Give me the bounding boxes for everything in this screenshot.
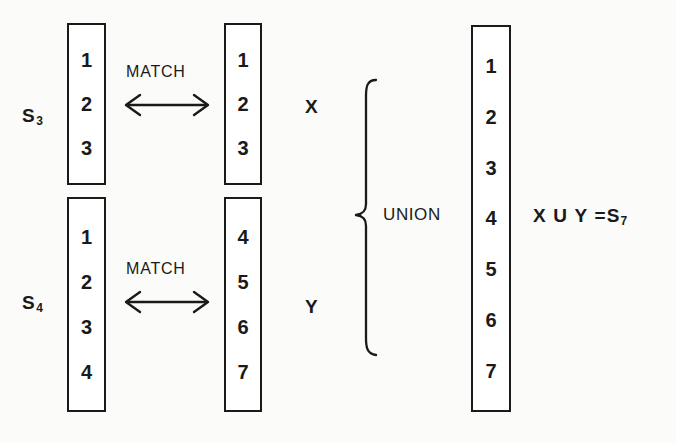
source-set-label-s3: S3	[22, 106, 42, 125]
target-list-box-y: 4 5 6 7	[224, 197, 262, 412]
list-cell: 2	[81, 94, 92, 114]
list-cell: 5	[237, 272, 248, 292]
set-union-diagram: S3 1 2 3 MATCH 1 2 3 X S4 1 2 3 4 MATCH	[0, 0, 676, 442]
list-cell: 1	[81, 227, 92, 247]
source-list-box-s3: 1 2 3	[67, 23, 106, 185]
union-equation-result-subscript: 7	[621, 214, 629, 228]
target-list-box-x: 1 2 3	[224, 23, 262, 185]
list-cell: 2	[485, 107, 496, 127]
group-label-x: X	[305, 97, 318, 116]
union-equation-result-letter: S	[607, 205, 621, 226]
match-arrow-top-icon	[118, 92, 216, 118]
source-set-letter: S	[22, 105, 35, 126]
source-set-label-s4: S4	[22, 293, 42, 312]
list-cell: 4	[237, 227, 248, 247]
list-cell: 4	[485, 208, 496, 228]
list-cell: 2	[81, 272, 92, 292]
list-cell: 1	[237, 50, 248, 70]
list-cell: 3	[237, 138, 248, 158]
list-cell: 7	[485, 361, 496, 381]
match-arrow-bottom-icon	[118, 289, 216, 315]
group-label-y: Y	[305, 297, 318, 316]
union-operation-label: UNION	[383, 206, 441, 223]
match-label-bottom: MATCH	[126, 261, 186, 277]
list-cell: 6	[237, 317, 248, 337]
union-brace-icon	[352, 78, 378, 358]
list-cell: 6	[485, 310, 496, 330]
list-cell: 2	[237, 94, 248, 114]
list-cell: 1	[485, 56, 496, 76]
union-equation: X U Y =S7	[533, 206, 628, 225]
list-cell: 3	[81, 317, 92, 337]
union-result-list-box: 1 2 3 4 5 6 7	[471, 25, 511, 412]
list-cell: 7	[237, 362, 248, 382]
list-cell: 4	[81, 362, 92, 382]
list-cell: 5	[485, 259, 496, 279]
list-cell: 3	[81, 138, 92, 158]
source-set-subscript: 4	[36, 301, 43, 315]
source-set-letter: S	[22, 292, 35, 313]
list-cell: 3	[485, 158, 496, 178]
match-label-top: MATCH	[126, 64, 186, 80]
source-set-subscript: 3	[36, 114, 43, 128]
source-list-box-s4: 1 2 3 4	[67, 197, 106, 412]
union-equation-expression: X U Y =	[533, 205, 607, 226]
list-cell: 1	[81, 50, 92, 70]
